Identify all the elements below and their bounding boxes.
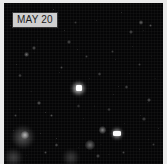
observation-frame-border: MAY 20 xyxy=(0,0,167,164)
star-grain-layer-secondary xyxy=(4,3,163,164)
sky-image-plate: MAY 20 xyxy=(4,3,163,164)
date-caption: MAY 20 xyxy=(13,13,57,27)
